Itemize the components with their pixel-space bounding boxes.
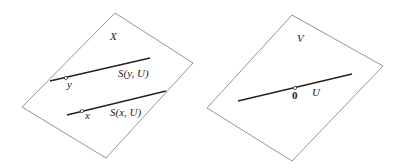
line-u-label: U (312, 86, 321, 98)
plane-x-label: X (109, 30, 118, 42)
point-x-label: x (84, 109, 90, 121)
point-origin-label: 0 (292, 89, 298, 101)
line-s-x-u-label: S(x, U) (110, 106, 141, 119)
plane-x (22, 13, 193, 158)
line-s-y-u-label: S(y, U) (118, 67, 149, 80)
point-y-label: y (66, 78, 72, 90)
point-x (80, 109, 83, 112)
plane-v-label: V (297, 32, 305, 44)
diagram-canvas: X y S(y, U) x S(x, U) V 0 U (0, 0, 404, 168)
